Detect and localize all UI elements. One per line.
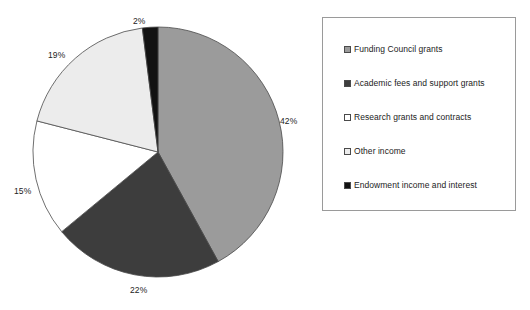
legend-item-label: Endowment income and interest <box>354 181 477 190</box>
pie-chart-svg <box>0 0 320 310</box>
chart-page: 42% 22% 15% 19% 2% Funding Council grant… <box>0 0 530 310</box>
legend-list: Funding Council grantsAcademic fees and … <box>344 32 509 202</box>
legend-item-label: Research grants and contracts <box>354 113 471 122</box>
legend-item-label: Funding Council grants <box>354 45 443 54</box>
legend-item[interactable]: Funding Council grants <box>344 32 509 66</box>
legend-item-label: Academic fees and support grants <box>354 79 485 88</box>
pie-chart: 42% 22% 15% 19% 2% <box>0 0 320 310</box>
legend-swatch-icon <box>344 148 351 155</box>
legend-item[interactable]: Academic fees and support grants <box>344 66 509 100</box>
legend-item-label: Other income <box>354 147 406 156</box>
pie-label-academic-fees: 22% <box>130 286 147 295</box>
pie-label-endowment-income: 2% <box>133 17 146 26</box>
legend-item[interactable]: Other income <box>344 134 509 168</box>
legend-swatch-icon <box>344 182 351 189</box>
pie-label-other-income: 19% <box>48 51 65 60</box>
pie-slice-group <box>33 27 283 277</box>
legend: Funding Council grantsAcademic fees and … <box>322 17 516 211</box>
pie-label-research-grants: 15% <box>14 187 31 196</box>
pie-label-funding-council-grants: 42% <box>280 117 297 126</box>
legend-swatch-icon <box>344 80 351 87</box>
legend-swatch-icon <box>344 46 351 53</box>
legend-swatch-icon <box>344 114 351 121</box>
legend-item[interactable]: Endowment income and interest <box>344 168 509 202</box>
legend-item[interactable]: Research grants and contracts <box>344 100 509 134</box>
